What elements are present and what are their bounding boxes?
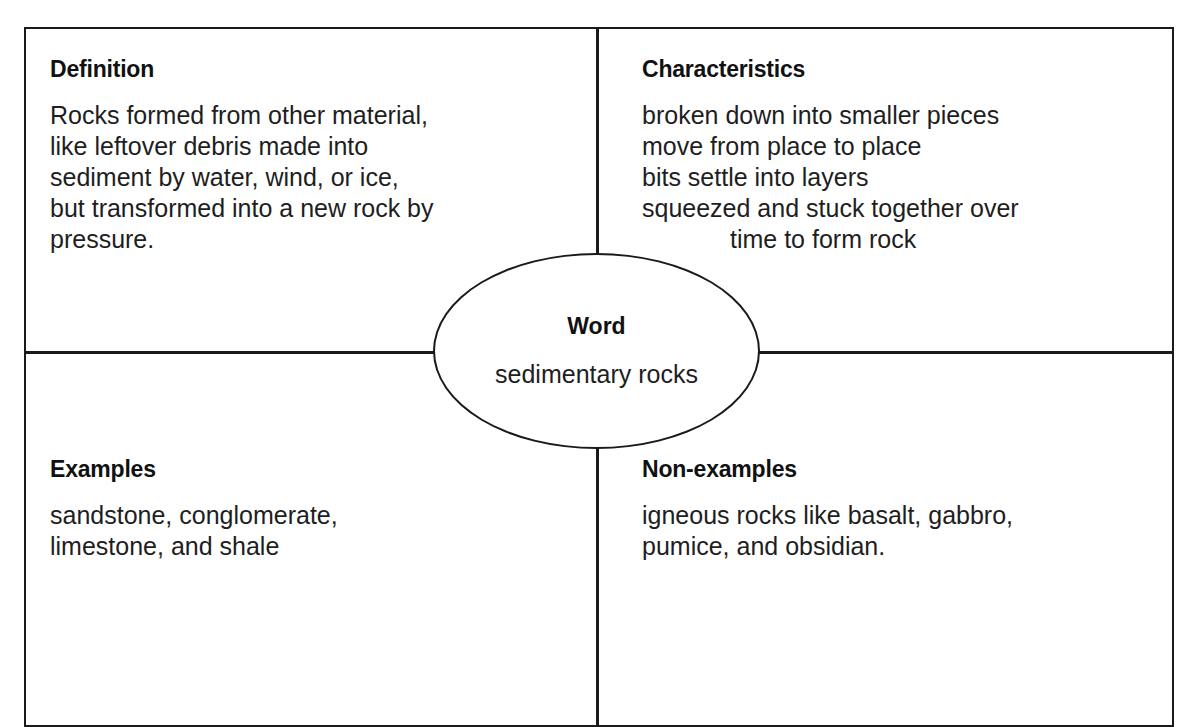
non-examples-line: igneous rocks like basalt, gabbro, bbox=[642, 500, 1013, 531]
examples-heading: Examples bbox=[50, 456, 338, 482]
definition-line: Rocks formed from other material, bbox=[50, 100, 434, 131]
examples-line: sandstone, conglomerate, bbox=[50, 500, 338, 531]
definition-line: like leftover debris made into bbox=[50, 131, 434, 162]
center-word-ellipse: Word sedimentary rocks bbox=[433, 253, 760, 449]
word-value: sedimentary rocks bbox=[435, 360, 758, 388]
quadrant-non-examples: Non-examples igneous rocks like basalt, … bbox=[642, 456, 1013, 562]
characteristics-text: broken down into smaller pieces move fro… bbox=[642, 100, 1019, 255]
characteristics-line: bits settle into layers bbox=[642, 162, 1019, 193]
definition-line: pressure. bbox=[50, 224, 434, 255]
quadrant-characteristics: Characteristics broken down into smaller… bbox=[642, 56, 1019, 255]
non-examples-text: igneous rocks like basalt, gabbro, pumic… bbox=[642, 500, 1013, 562]
definition-text: Rocks formed from other material, like l… bbox=[50, 100, 434, 255]
characteristics-line: broken down into smaller pieces bbox=[642, 100, 1019, 131]
quadrant-definition: Definition Rocks formed from other mater… bbox=[50, 56, 434, 255]
characteristics-line: time to form rock bbox=[642, 224, 1019, 255]
word-label: Word bbox=[435, 313, 758, 339]
characteristics-line: move from place to place bbox=[642, 131, 1019, 162]
quadrant-examples: Examples sandstone, conglomerate, limest… bbox=[50, 456, 338, 562]
characteristics-line: squeezed and stuck together over bbox=[642, 193, 1019, 224]
examples-text: sandstone, conglomerate, limestone, and … bbox=[50, 500, 338, 562]
examples-line: limestone, and shale bbox=[50, 531, 338, 562]
definition-line: but transformed into a new rock by bbox=[50, 193, 434, 224]
non-examples-heading: Non-examples bbox=[642, 456, 1013, 482]
characteristics-heading: Characteristics bbox=[642, 56, 1019, 82]
definition-heading: Definition bbox=[50, 56, 434, 82]
non-examples-line: pumice, and obsidian. bbox=[642, 531, 1013, 562]
definition-line: sediment by water, wind, or ice, bbox=[50, 162, 434, 193]
